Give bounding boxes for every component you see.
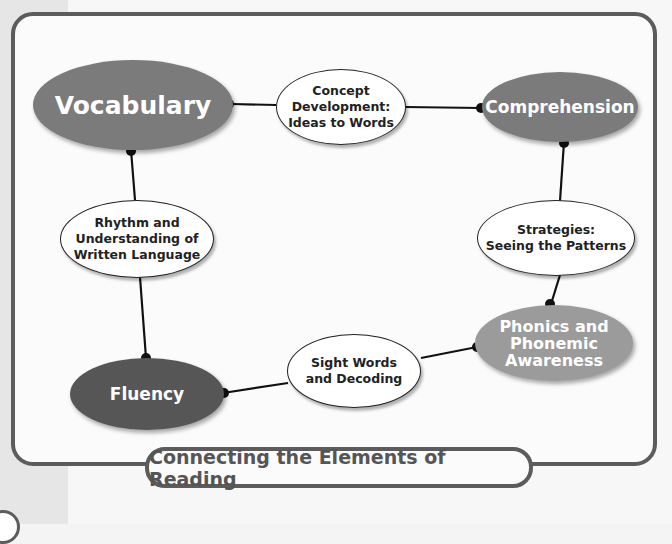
node-rhythm-label-1: Rhythm and <box>94 215 179 231</box>
node-phonics-label-1: Phonics and <box>499 318 608 335</box>
node-strategies: Strategies: Seeing the Patterns <box>477 200 635 276</box>
node-concept-label-3: Ideas to Words <box>288 115 394 131</box>
edge-rhythm-vocabulary <box>131 150 135 200</box>
node-fluency: Fluency <box>70 358 224 430</box>
node-strategies-label-2: Seeing the Patterns <box>486 238 626 254</box>
edge-concept-comprehension <box>405 107 481 108</box>
node-strategies-label-1: Strategies: <box>517 222 595 238</box>
node-sight-words-label-2: and Decoding <box>306 371 403 387</box>
node-sight-words: Sight Words and Decoding <box>287 334 421 408</box>
node-rhythm: Rhythm and Understanding of Written Lang… <box>60 200 214 278</box>
diagram-title-text: Connecting the Elements of Reading <box>149 446 529 490</box>
node-phonics-label-2: Phonemic <box>510 335 598 352</box>
node-vocabulary: Vocabulary <box>33 60 233 150</box>
node-rhythm-label-2: Understanding of <box>76 231 199 247</box>
node-concept-label-1: Concept <box>312 83 369 99</box>
node-concept-development: Concept Development: Ideas to Words <box>276 69 406 145</box>
diagram-title: Connecting the Elements of Reading <box>145 447 533 488</box>
node-sight-words-label-1: Sight Words <box>311 355 397 371</box>
edge-fluency-rhythm <box>140 277 146 358</box>
node-phonics: Phonics and Phonemic Awareness <box>475 305 633 381</box>
node-concept-label-2: Development: <box>292 99 391 115</box>
node-comprehension: Comprehension <box>482 72 638 142</box>
node-rhythm-label-3: Written Language <box>74 247 201 263</box>
edge-sightwords-fluency <box>223 383 288 393</box>
node-vocabulary-label: Vocabulary <box>55 91 212 120</box>
edge-comprehension-strategies <box>560 142 564 201</box>
node-comprehension-label: Comprehension <box>485 97 634 117</box>
edge-phonics-sightwords <box>421 347 477 358</box>
edge-vocabulary-concept <box>232 104 276 105</box>
node-fluency-label: Fluency <box>110 384 184 404</box>
node-phonics-label-3: Awareness <box>505 352 603 369</box>
